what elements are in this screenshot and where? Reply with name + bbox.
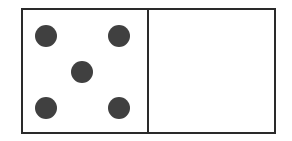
pip-dot bbox=[35, 25, 57, 47]
domino-half-right-blank bbox=[149, 10, 274, 132]
pip-dot bbox=[108, 97, 130, 119]
pip-dot bbox=[35, 97, 57, 119]
domino-half-left-five bbox=[23, 10, 147, 132]
pip-dot bbox=[71, 61, 93, 83]
domino-tile bbox=[21, 8, 276, 134]
pip-dot bbox=[108, 25, 130, 47]
